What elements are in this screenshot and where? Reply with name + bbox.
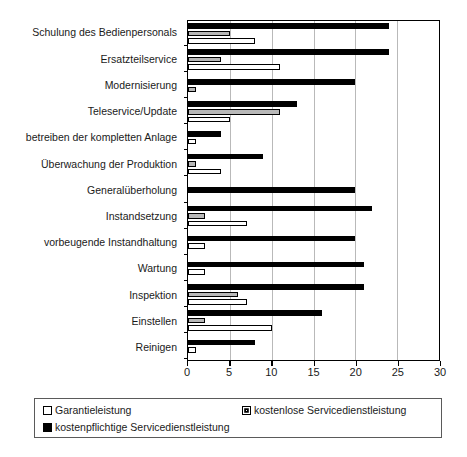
bar xyxy=(188,206,372,212)
category-tick xyxy=(184,45,188,46)
plot-wrapper: Schulung des Bedienpersonals Ersatzteils… xyxy=(0,0,467,380)
category-label: Einstellen xyxy=(0,309,182,335)
legend: Garantieleistung kostenlose Servicediens… xyxy=(34,398,442,438)
bar xyxy=(188,169,221,175)
bar xyxy=(188,340,255,346)
bar-group xyxy=(188,204,439,230)
category-label: Reinigen xyxy=(0,335,182,361)
category-label: Wartung xyxy=(0,256,182,282)
bar xyxy=(188,31,230,37)
bar xyxy=(188,154,263,160)
x-axis-tick-label: 5 xyxy=(226,366,232,378)
bar xyxy=(188,310,322,316)
category-label: betreiben der kompletten Anlage xyxy=(0,125,182,151)
bar xyxy=(188,318,205,324)
category-tick xyxy=(184,97,188,98)
bar-group xyxy=(188,125,439,151)
bar xyxy=(188,38,255,44)
legend-swatch-gray-icon xyxy=(242,406,251,415)
category-tick xyxy=(184,123,188,124)
category-tick xyxy=(184,332,188,333)
bar-group xyxy=(188,99,439,125)
category-label: Inspektion xyxy=(0,282,182,308)
bar xyxy=(188,243,205,249)
category-label: Schulung des Bedienpersonals xyxy=(0,20,182,46)
bar xyxy=(188,87,196,93)
category-tick xyxy=(184,149,188,150)
category-label: Instandsetzung xyxy=(0,204,182,230)
bar xyxy=(188,262,364,268)
category-axis-labels: Schulung des Bedienpersonals Ersatzteils… xyxy=(0,20,182,361)
legend-label: kostenlose Servicedienstleistung xyxy=(254,404,406,416)
bar xyxy=(188,23,389,29)
category-label: Generalüberholung xyxy=(0,177,182,203)
bar xyxy=(188,64,280,70)
legend-item-garantieleistung: Garantieleistung xyxy=(43,404,131,416)
bar xyxy=(188,79,355,85)
category-tick xyxy=(184,71,188,72)
bar-group xyxy=(188,282,439,308)
legend-item-kostenpflichtige-servicedienstleistung: kostenpflichtige Servicedienstleistung xyxy=(43,421,230,433)
category-label: vorbeugende Instandhaltung xyxy=(0,230,182,256)
bar-group xyxy=(188,230,439,256)
category-label: Modernisierung xyxy=(0,72,182,98)
category-tick xyxy=(184,358,188,359)
bar-group xyxy=(188,21,439,47)
category-tick xyxy=(184,228,188,229)
x-axis-tick-label: 10 xyxy=(265,366,277,378)
legend-label: kostenpflichtige Servicedienstleistung xyxy=(55,421,230,433)
bar xyxy=(188,139,196,145)
bar xyxy=(188,299,247,305)
bar xyxy=(188,284,364,290)
bar xyxy=(188,109,280,115)
x-axis-tick-label: 15 xyxy=(307,366,319,378)
x-axis-tick-label: 25 xyxy=(392,366,404,378)
legend-label: Garantieleistung xyxy=(55,404,131,416)
bar-group xyxy=(188,308,439,334)
bar xyxy=(188,221,247,227)
x-axis-tick-label: 20 xyxy=(350,366,362,378)
bar-rows xyxy=(188,21,439,360)
legend-swatch-black-icon xyxy=(43,423,52,432)
category-tick xyxy=(184,202,188,203)
bar xyxy=(188,117,230,123)
category-label: Ersatzteilservice xyxy=(0,46,182,72)
category-tick xyxy=(184,280,188,281)
category-tick xyxy=(184,254,188,255)
bar-group xyxy=(188,256,439,282)
x-axis-tick-label: 0 xyxy=(184,366,190,378)
bar xyxy=(188,213,205,219)
bar xyxy=(188,292,238,298)
bar-chart: Schulung des Bedienpersonals Ersatzteils… xyxy=(0,0,467,457)
category-label: Teleservice/Update xyxy=(0,99,182,125)
x-axis-tick-labels: 051015202530 xyxy=(187,366,440,382)
bar xyxy=(188,269,205,275)
bar xyxy=(188,325,272,331)
plot-area xyxy=(187,20,440,361)
bar xyxy=(188,236,355,242)
bar xyxy=(188,131,221,137)
category-label: Überwachung der Produktion xyxy=(0,151,182,177)
bar-group xyxy=(188,177,439,203)
bar-group xyxy=(188,334,439,360)
legend-item-kostenlose-servicedienstleistung: kostenlose Servicedienstleistung xyxy=(242,404,406,416)
bar-group xyxy=(188,73,439,99)
bar-group xyxy=(188,151,439,177)
x-axis-tick-label: 30 xyxy=(434,366,446,378)
category-tick xyxy=(184,175,188,176)
legend-swatch-white-icon xyxy=(43,406,52,415)
category-tick xyxy=(184,306,188,307)
bar xyxy=(188,347,196,353)
bar xyxy=(188,57,221,63)
bar xyxy=(188,101,297,107)
bar xyxy=(188,187,355,193)
bar xyxy=(188,49,389,55)
bar xyxy=(188,161,196,167)
bar-group xyxy=(188,47,439,73)
